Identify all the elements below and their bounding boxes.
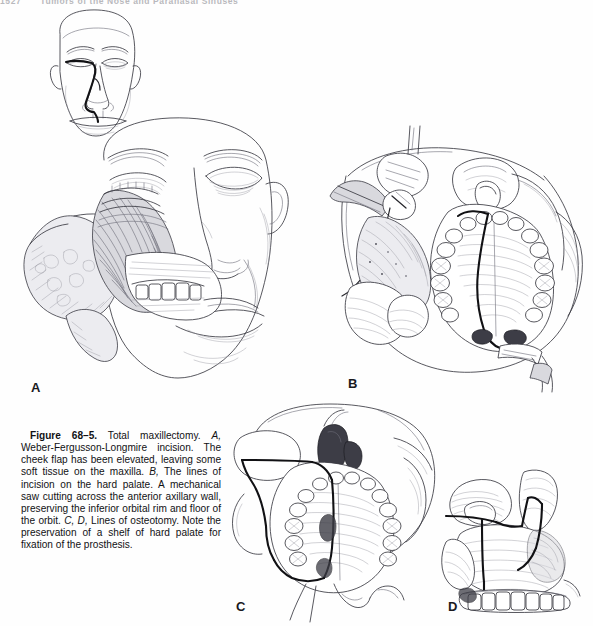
- running-head-title: Tumors of the Nose and Paranasal Sinuses: [40, 0, 238, 5]
- caption-segment-4: B,: [149, 466, 159, 477]
- caption-segment-1: Total maxillectomy.: [97, 430, 211, 441]
- running-head: 1527 Tumors of the Nose and Paranasal Si…: [0, 0, 593, 5]
- panel-a-main-face: [24, 118, 288, 378]
- figure-caption: Figure 68–5. Total maxillectomy. A, Webe…: [21, 430, 221, 552]
- panel-b-illustration: [328, 140, 590, 378]
- panel-a-illustration: [8, 8, 338, 380]
- panel-d-illustration: [438, 468, 590, 616]
- caption-segment-0: Figure 68–5.: [30, 430, 97, 441]
- caption-segment-6: C, D,: [64, 515, 88, 526]
- panel-letter-b: B: [348, 377, 357, 390]
- panel-letter-c: C: [236, 600, 245, 613]
- caption-segment-2: A,: [211, 430, 221, 441]
- textbook-figure-page: 1527 Tumors of the Nose and Paranasal Si…: [0, 0, 593, 626]
- panel-c-illustration: [228, 398, 440, 603]
- panel-letter-d: D: [448, 600, 457, 613]
- running-head-page-number: 1527: [0, 0, 21, 5]
- panel-letter-a: A: [31, 381, 40, 394]
- panel-a-inset-face: [50, 10, 140, 136]
